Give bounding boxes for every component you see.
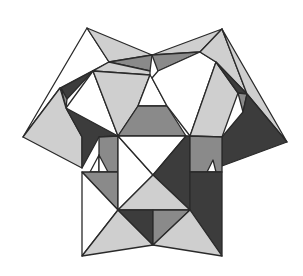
face-right-box-mid <box>190 136 222 172</box>
geometric-figure <box>0 0 303 276</box>
face-left-box-white-small <box>90 155 99 172</box>
polyhedron-drawing <box>0 0 303 276</box>
